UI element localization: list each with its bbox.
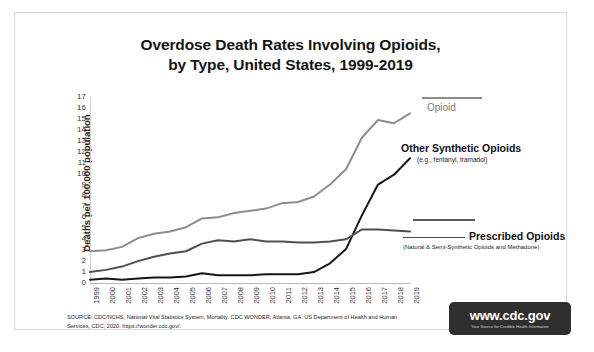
x-tick-2013: 2013 [317,287,325,304]
prescribed-sublabel: (Natural & Semi-Synthetic Opioids and Me… [403,244,565,250]
y-tick-11: 11 [78,159,86,167]
y-tick-13: 13 [77,137,86,145]
other-synthetic-sublabel: (e.g., fentanyl, tramadol) [417,156,521,163]
x-tick-2005: 2005 [189,287,197,304]
cdc-logo-tagline: Your Source for Credible Health Informat… [471,324,548,329]
x-tick-2018: 2018 [397,287,405,304]
x-tick-2012: 2012 [301,287,309,304]
opioid-leader-line [422,97,482,99]
y-tick-12: 12 [77,148,86,156]
x-tick-2009: 2009 [253,287,261,304]
prescribed-label: Prescribed Opioids [469,230,565,242]
other-synthetic-label: Other Synthetic Opioids [401,142,521,154]
x-axis-line [90,283,410,284]
annotation-prescribed: Prescribed Opioids (Natural & Semi-Synth… [403,219,565,250]
series-line-opioid [90,113,410,251]
x-tick-2001: 2001 [125,287,133,304]
annotation-other-synthetic: Other Synthetic Opioids (e.g., fentanyl,… [401,142,521,163]
x-tick-2015: 2015 [349,287,357,304]
x-tick-2008: 2008 [237,287,245,304]
x-tick-2007: 2007 [221,287,229,304]
opioid-label: Opioid [427,102,482,113]
chart-series-lines [90,97,410,283]
prescribed-leader-line-top [413,219,475,221]
chart-plot-area: Deaths per 100,000 population 0123456789… [90,97,410,283]
prescribed-leader-line [403,237,465,239]
y-tick-15: 15 [77,115,86,123]
y-tick-0: 0 [82,279,86,287]
cdc-logo[interactable]: www.cdc.gov Your Source for Credible Hea… [449,302,571,335]
y-tick-4: 4 [82,235,86,243]
poster-frame: Overdose Death Rates Involving Opioids, … [14,12,567,330]
y-tick-17: 17 [77,93,86,101]
x-tick-2002: 2002 [141,287,149,304]
y-tick-9: 9 [82,181,86,189]
x-tick-2019: 2019 [413,287,421,304]
cdc-logo-url: www.cdc.gov [470,309,550,323]
y-tick-5: 5 [82,224,86,232]
y-tick-8: 8 [82,191,86,199]
x-tick-2006: 2006 [205,287,213,304]
x-tick-2010: 2010 [269,287,277,304]
series-line-prescribed-opioids [90,229,410,272]
title-line-1: Overdose Death Rates Involving Opioids, [140,36,440,53]
y-tick-16: 16 [77,104,86,112]
x-tick-2000: 2000 [109,287,117,304]
y-tick-1: 1 [82,268,86,276]
page-title: Overdose Death Rates Involving Opioids, … [15,35,566,75]
y-tick-3: 3 [82,246,86,254]
x-tick-1999: 1999 [93,287,101,304]
y-tick-6: 6 [82,213,86,221]
title-line-2: by Type, United States, 1999-2019 [15,55,566,75]
x-tick-2014: 2014 [333,287,341,304]
source-note: SOURCE: CDC/NCHS, National Vital Statist… [67,313,417,330]
x-tick-2011: 2011 [285,287,293,303]
y-tick-10: 10 [77,170,86,178]
x-tick-2003: 2003 [157,287,165,304]
y-tick-7: 7 [82,202,86,210]
y-tick-2: 2 [82,257,86,265]
annotation-opioid: Opioid [416,97,482,113]
y-tick-14: 14 [77,126,86,134]
x-tick-2017: 2017 [381,287,389,304]
x-tick-2016: 2016 [365,287,373,304]
x-tick-2004: 2004 [173,287,181,304]
